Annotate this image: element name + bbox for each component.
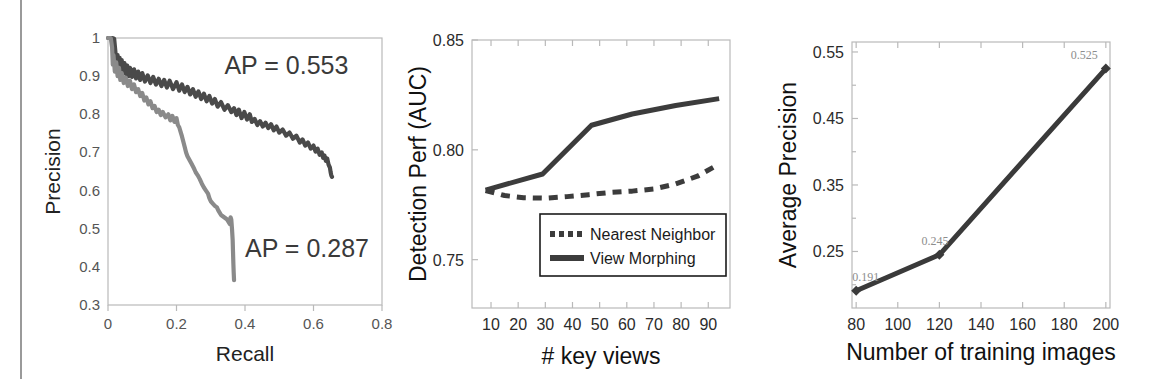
panel-average-precision: 0.250.350.450.5580100120140160180200Numb…: [770, 0, 1152, 379]
x-tick-label: 20: [509, 316, 527, 333]
x-axis-title: Recall: [216, 342, 274, 365]
x-tick-label: 0: [104, 315, 112, 332]
y-tick-label: 0.5: [79, 220, 100, 237]
y-tick-label: 0.9: [79, 67, 100, 84]
x-tick-label: 0.8: [372, 315, 393, 332]
average-precision-chart: 0.250.350.450.5580100120140160180200Numb…: [770, 0, 1152, 379]
y-tick-label: 0.45: [813, 110, 844, 127]
y-tick-label: 1: [92, 29, 100, 46]
x-axis-title: # key views: [542, 343, 661, 369]
x-tick-label: 0.6: [303, 315, 324, 332]
y-tick-label: 0.80: [433, 142, 464, 159]
x-tick-label: 0.2: [166, 315, 187, 332]
y-axis-title: Detection Perf (AUC): [405, 66, 431, 282]
x-tick-label: 30: [536, 316, 554, 333]
y-axis-title: Average Precision: [775, 82, 801, 268]
annotation-label: AP = 0.553: [224, 51, 348, 79]
y-tick-label: 0.75: [433, 252, 464, 269]
data-point-label: 0.525: [1071, 48, 1098, 62]
x-tick-label: 200: [1092, 316, 1119, 333]
x-tick-label: 100: [884, 316, 911, 333]
x-tick-label: 80: [672, 316, 690, 333]
panel-detection-perf: 0.750.800.85102030405060708090# key view…: [400, 0, 770, 379]
x-tick-label: 160: [1009, 316, 1036, 333]
legend-label: View Morphing: [590, 250, 696, 267]
left-margin-rule: [20, 0, 22, 379]
x-axis-title: Number of training images: [846, 339, 1116, 365]
detection-perf-chart: 0.750.800.85102030405060708090# key view…: [400, 0, 770, 379]
series-line: [856, 69, 1106, 291]
x-tick-label: 60: [618, 316, 636, 333]
plot-frame: [852, 42, 1110, 308]
data-point-label: 0.245: [921, 234, 948, 248]
x-tick-label: 80: [847, 316, 865, 333]
y-tick-label: 0.7: [79, 143, 100, 160]
data-point-label: 0.191: [852, 270, 879, 284]
y-tick-label: 0.35: [813, 177, 844, 194]
figure-root: 0.30.40.50.60.70.80.9100.20.40.60.8Recal…: [0, 0, 1152, 379]
precision-recall-chart: 0.30.40.50.60.70.80.9100.20.40.60.8Recal…: [30, 0, 400, 379]
y-tick-label: 0.25: [813, 243, 844, 260]
x-tick-label: 10: [482, 316, 500, 333]
x-tick-label: 90: [699, 316, 717, 333]
y-tick-label: 0.4: [79, 258, 100, 275]
x-tick-label: 0.4: [235, 315, 256, 332]
x-tick-label: 140: [968, 316, 995, 333]
x-tick-label: 120: [926, 316, 953, 333]
y-tick-label: 0.8: [79, 105, 100, 122]
panel-precision-recall: 0.30.40.50.60.70.80.9100.20.40.60.8Recal…: [30, 0, 400, 379]
series-line: [486, 99, 720, 190]
y-tick-label: 0.3: [79, 296, 100, 313]
y-tick-label: 0.85: [433, 32, 464, 49]
annotation-label: AP = 0.287: [245, 234, 369, 262]
x-tick-label: 70: [645, 316, 663, 333]
y-axis-title: Precision: [41, 128, 64, 214]
x-tick-label: 180: [1051, 316, 1078, 333]
x-tick-label: 40: [564, 316, 582, 333]
y-tick-label: 0.55: [813, 44, 844, 61]
x-tick-label: 50: [591, 316, 609, 333]
y-tick-label: 0.6: [79, 182, 100, 199]
legend-label: Nearest Neighbor: [590, 226, 716, 243]
